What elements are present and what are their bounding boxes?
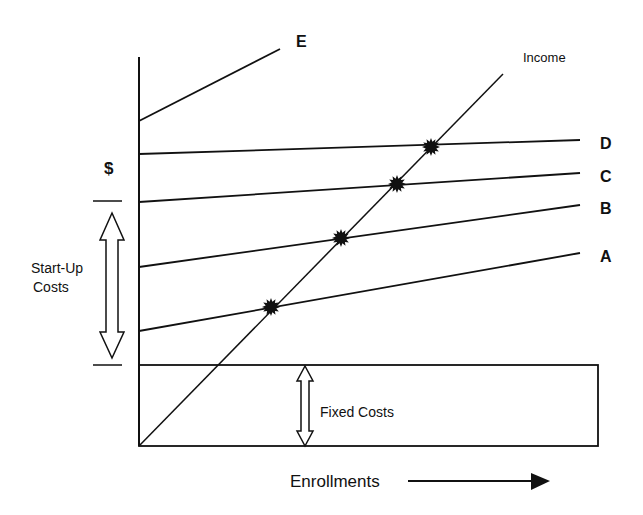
cost-line-d — [139, 140, 580, 154]
cost-line-e — [139, 49, 280, 121]
cost-line-a — [139, 253, 580, 331]
break-even-starburst-icon — [262, 298, 280, 316]
line-labels: ABCDE — [296, 33, 612, 265]
break-even-diagram: ABCDE Income $ Start-Up Costs Fixed Cost… — [0, 0, 643, 515]
break-even-starburst-icon — [332, 229, 350, 247]
fixed-costs-double-arrow-icon — [297, 366, 313, 446]
cost-line-label-e: E — [296, 33, 307, 50]
cost-line-label-a: A — [600, 248, 612, 265]
start-up-label-line1: Start-Up — [31, 260, 83, 276]
y-axis-label: $ — [104, 159, 114, 178]
cost-line-label-b: B — [600, 200, 612, 217]
cost-line-c — [139, 173, 580, 202]
cost-line-b — [139, 205, 580, 267]
break-even-starburst-icon — [388, 175, 406, 193]
cost-lines — [139, 49, 580, 331]
start-up-label-line2: Costs — [33, 279, 69, 295]
cost-line-label-c: C — [600, 168, 612, 185]
x-axis-label: Enrollments — [290, 472, 380, 491]
start-up-double-arrow-icon — [100, 213, 124, 358]
fixed-costs-label: Fixed Costs — [320, 404, 394, 420]
cost-line-label-d: D — [600, 135, 612, 152]
income-label: Income — [523, 50, 566, 65]
x-axis-arrow-icon — [531, 473, 550, 490]
